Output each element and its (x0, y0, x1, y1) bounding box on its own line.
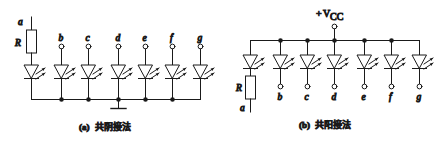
branch-e (139, 44, 160, 99)
led-g (194, 65, 215, 79)
panel-b-common-anode: + V CC R a b c d e f g (b) 共阳接法 (235, 8, 433, 130)
branch-a (25, 17, 46, 100)
ground-symbol (111, 100, 126, 109)
emission-arrows-g (205, 68, 214, 79)
emission-arrows-f (177, 68, 186, 79)
terminal-circle-b-d[interactable] (332, 84, 337, 89)
led-b (55, 65, 76, 79)
circuit-figure: a R b c d e f g (a) 共阴接法 (0, 0, 446, 144)
label-terminal-g: g (198, 33, 203, 43)
diode-triangle-e (139, 65, 153, 78)
resistor-symbol-a (27, 30, 37, 53)
diode-triangle-b-f (385, 55, 399, 68)
emission-arrows-a (36, 68, 45, 79)
panel-a-common-cathode: a R b c d e f g (a) 共阴接法 (14, 17, 214, 132)
led-f (166, 65, 187, 79)
label-resistor-a: R (14, 38, 21, 48)
emission-arrows-e (150, 68, 159, 79)
diode-triangle-b-d (328, 55, 342, 68)
terminal-circle-b-e[interactable] (362, 84, 367, 89)
label-supply-sign: + (316, 8, 322, 19)
led-b-g (413, 55, 434, 69)
caption-text-b: 共阳接法 (315, 119, 351, 130)
branch-f (166, 44, 187, 99)
emission-arrows-c (93, 68, 102, 79)
resistor-symbol-b (246, 76, 256, 99)
led-b-d (328, 55, 349, 69)
label-terminal-e: e (143, 33, 147, 43)
diode-triangle-c (82, 65, 96, 78)
led-b-b (274, 55, 295, 69)
terminal-circle-b-b[interactable] (278, 84, 283, 89)
emission-arrows-b-g (424, 58, 433, 69)
diode-triangle-b-e (358, 55, 372, 68)
label-terminal-b-e: e (362, 92, 366, 102)
diode-triangle-b-g (413, 55, 427, 68)
terminal-circle-vcc[interactable] (332, 24, 337, 29)
diode-triangle-d (112, 65, 126, 78)
led-a (25, 65, 46, 79)
caption-index-a: (a) (79, 122, 90, 132)
label-terminal-f: f (170, 33, 174, 43)
caption-index-b: (b) (299, 120, 310, 130)
branch-b-b (274, 41, 295, 89)
led-b-a (244, 55, 265, 69)
emission-arrows-b (66, 68, 75, 79)
emission-arrows-b-a (255, 58, 264, 69)
led-b-f (385, 55, 406, 69)
branch-d (112, 44, 133, 99)
branch-c (82, 44, 103, 99)
terminal-circle-g[interactable] (198, 44, 203, 49)
diode-triangle-a (25, 65, 39, 78)
branch-b-e (358, 41, 379, 89)
label-terminal-b-b: b (278, 92, 283, 102)
figure-canvas: a R b c d e f g (a) 共阴接法 (0, 0, 446, 144)
emission-arrows-b-c (312, 58, 321, 69)
led-b-c (301, 55, 322, 69)
emission-arrows-d (123, 68, 132, 79)
led-c (82, 65, 103, 79)
diode-triangle-b-a (244, 55, 258, 68)
diode-triangle-g (194, 65, 208, 78)
label-terminal-a: a (18, 17, 23, 27)
led-e (139, 65, 160, 79)
label-terminal-b-g: g (417, 92, 422, 102)
terminal-circle-b-f[interactable] (389, 84, 394, 89)
label-terminal-b-a: a (240, 103, 245, 113)
diode-triangle-b-b (274, 55, 288, 68)
emission-arrows-b-b (285, 58, 294, 69)
led-d (112, 65, 133, 79)
terminal-circle-d[interactable] (116, 44, 121, 49)
led-b-e (358, 55, 379, 69)
label-terminal-c: c (86, 33, 91, 43)
branch-g (194, 44, 215, 99)
label-terminal-b-f: f (389, 92, 393, 102)
label-terminal-b: b (59, 33, 64, 43)
label-terminal-b-c: c (305, 92, 310, 102)
emission-arrows-b-d (339, 58, 348, 69)
diode-triangle-b-c (301, 55, 315, 68)
terminal-circle-f[interactable] (170, 44, 175, 49)
emission-arrows-b-f (396, 58, 405, 69)
label-terminal-b-d: d (332, 92, 337, 102)
terminal-circle-e[interactable] (143, 44, 148, 49)
branch-b-c (301, 41, 322, 89)
branch-b-g (413, 41, 434, 89)
branch-b-f (385, 41, 406, 89)
terminal-circle-b-c[interactable] (305, 84, 310, 89)
label-resistor-b: R (235, 83, 242, 93)
emission-arrows-b-e (369, 58, 378, 69)
terminal-circle-b[interactable] (59, 44, 64, 49)
label-supply-subscript: CC (330, 11, 344, 22)
terminal-circle-b-g[interactable] (417, 84, 422, 89)
terminal-circle-c[interactable] (86, 44, 91, 49)
branch-b-a (244, 41, 265, 113)
label-terminal-d: d (116, 33, 121, 43)
caption-text-a: 共阴接法 (95, 121, 131, 132)
branch-b (55, 44, 76, 99)
branch-b-d (328, 41, 349, 89)
diode-triangle-b (55, 65, 69, 78)
diode-triangle-f (166, 65, 180, 78)
